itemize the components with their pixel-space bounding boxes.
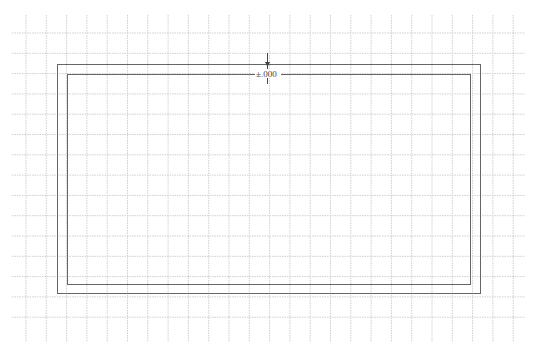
drawing-canvas[interactable]: ±.000	[0, 0, 535, 350]
level-marker-label: ±.000	[256, 69, 277, 79]
